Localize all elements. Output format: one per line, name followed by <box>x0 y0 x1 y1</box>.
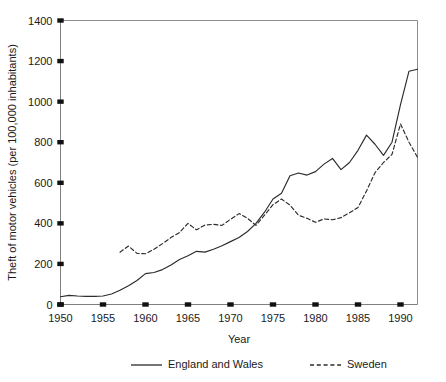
x-tick-label: 1950 <box>48 312 72 324</box>
x-tick-mark <box>100 302 106 306</box>
x-tick-mark <box>312 302 318 306</box>
x-tick-label: 1985 <box>346 312 370 324</box>
x-tick-mark <box>355 302 361 306</box>
x-tick-label: 1980 <box>303 312 327 324</box>
y-tick-label: 400 <box>34 217 52 229</box>
x-tick-label: 1975 <box>261 312 285 324</box>
y-tick-mark <box>57 99 63 103</box>
x-tick-mark <box>227 302 233 306</box>
x-tick-label: 1955 <box>91 312 115 324</box>
y-tick-label: 1000 <box>28 96 52 108</box>
x-tick-mark <box>397 302 403 306</box>
y-tick-label: 600 <box>34 177 52 189</box>
y-tick-mark <box>57 181 63 185</box>
line-chart: 0200400600800100012001400 19501955196019… <box>0 0 446 382</box>
x-tick-label: 1970 <box>218 312 242 324</box>
x-axis-title: Year <box>228 333 251 345</box>
x-tick-label: 1990 <box>388 312 412 324</box>
x-tick-mark <box>185 302 191 306</box>
plot-frame <box>61 21 418 305</box>
x-tick-mark <box>142 302 148 306</box>
y-tick-mark <box>57 221 63 225</box>
x-tick-mark <box>57 302 63 306</box>
data-series-group <box>61 69 418 297</box>
x-tick-label: 1965 <box>176 312 200 324</box>
y-tick-label: 1200 <box>28 55 52 67</box>
y-tick-mark <box>57 140 63 144</box>
y-tick-mark <box>57 59 63 63</box>
y-tick-label: 1400 <box>28 15 52 27</box>
x-tick-mark <box>270 302 276 306</box>
legend-label-sweden: Sweden <box>347 358 387 370</box>
y-axis-title: Theft of motor vehicles (per 100,000 inh… <box>6 44 18 281</box>
y-tick-label: 200 <box>34 258 52 270</box>
y-tick-mark <box>57 262 63 266</box>
x-tick-label: 1960 <box>133 312 157 324</box>
legend-label-england-and-wales: England and Wales <box>168 358 263 370</box>
chart-legend: England and WalesSweden <box>131 358 387 370</box>
y-tick-mark <box>57 18 63 22</box>
chart-container: 0200400600800100012001400 19501955196019… <box>0 0 446 382</box>
y-tick-label: 800 <box>34 136 52 148</box>
series-line-sweden <box>120 124 418 254</box>
plot-border <box>61 21 418 305</box>
y-tick-label: 0 <box>46 299 52 311</box>
x-axis-ticks: 195019551960196519701975198019851990 <box>48 302 412 323</box>
series-line-england-and-wales <box>61 69 418 297</box>
y-axis-ticks: 0200400600800100012001400 <box>28 15 64 311</box>
